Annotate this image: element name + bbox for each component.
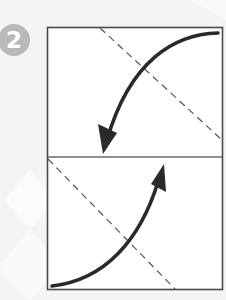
origami-step-diagram: 2: [0, 0, 226, 300]
fold-diagram: [0, 0, 226, 300]
paper-rectangle: [48, 28, 223, 290]
